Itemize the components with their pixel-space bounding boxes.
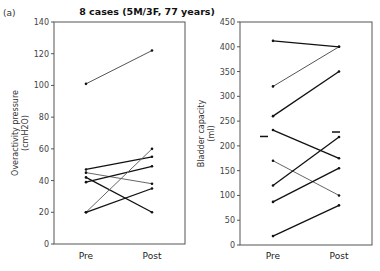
y-tick-label: 150 (220, 167, 235, 176)
y-tick-label: 200 (220, 142, 235, 151)
data-point (338, 194, 341, 197)
y-tick-label: 100 (220, 191, 235, 200)
data-point (151, 165, 154, 168)
data-point (272, 40, 275, 43)
plot-frame (54, 22, 185, 244)
y-axis-unit: (ml) (207, 125, 216, 141)
data-point (151, 148, 154, 151)
data-point (272, 129, 275, 132)
data-point (272, 201, 275, 204)
data-point (85, 176, 88, 179)
x-category-label: Pre (266, 251, 281, 261)
y-tick-label: 350 (220, 68, 235, 77)
y-tick-label: 450 (220, 18, 235, 27)
data-point (151, 155, 154, 158)
series-line (86, 51, 152, 84)
y-tick-label: 0 (230, 241, 235, 250)
data-point (85, 168, 88, 171)
data-point (338, 136, 341, 139)
data-point (151, 187, 154, 190)
y-tick-label: 50 (225, 216, 235, 225)
y-tick-label: 400 (220, 43, 235, 52)
data-point (272, 184, 275, 187)
series-line (273, 205, 339, 236)
y-tick-label: 60 (39, 145, 49, 154)
data-point (338, 167, 341, 170)
y-tick-label: 0 (44, 240, 49, 249)
series-line (273, 47, 339, 87)
y-tick-label: 120 (34, 50, 49, 59)
y-tick-label: 100 (34, 81, 49, 90)
x-category-label: Post (143, 251, 162, 261)
figure: (a)020406080100120140PrePost8 cases (5M/… (0, 0, 380, 271)
series-line (273, 168, 339, 202)
data-point (272, 115, 275, 118)
data-point (338, 45, 341, 48)
panel-label: (a) (3, 8, 16, 18)
y-tick-label: 250 (220, 117, 235, 126)
series-line (86, 177, 152, 212)
chart-title: 8 cases (5M/3F, 77 years) (79, 6, 215, 17)
data-point (272, 85, 275, 88)
y-tick-label: 40 (39, 177, 49, 186)
data-point (338, 204, 341, 207)
x-category-label: Pre (79, 251, 94, 261)
y-axis-label: Bladder capacity (197, 100, 206, 168)
y-axis-label: Overactivity pressure (11, 90, 20, 176)
series-line (273, 72, 339, 117)
data-point (272, 235, 275, 238)
data-point (272, 159, 275, 162)
x-category-label: Post (330, 251, 349, 261)
data-point (85, 211, 88, 214)
data-point (85, 83, 88, 86)
data-point (151, 182, 154, 185)
plot-frame (240, 22, 372, 245)
y-tick-label: 20 (39, 208, 49, 217)
data-point (85, 181, 88, 184)
data-point (338, 70, 341, 73)
series-line (86, 189, 152, 213)
series-line (86, 149, 152, 212)
series-line (273, 41, 339, 47)
data-point (151, 49, 154, 52)
data-point (151, 211, 154, 214)
data-point (85, 171, 88, 174)
y-tick-label: 140 (34, 18, 49, 27)
data-point (338, 157, 341, 160)
y-axis-unit: (cmH2O) (21, 115, 30, 151)
y-tick-label: 300 (220, 92, 235, 101)
y-tick-label: 80 (39, 113, 49, 122)
